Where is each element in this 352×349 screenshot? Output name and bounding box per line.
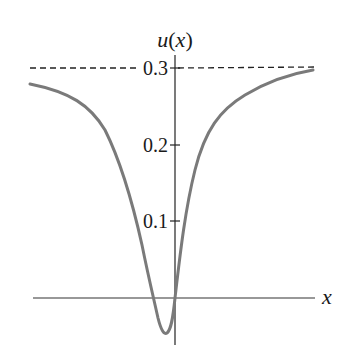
x-axis-label: x xyxy=(321,284,332,309)
y-axis-label: u(x) xyxy=(157,27,192,52)
tick-label-02: 0.2 xyxy=(143,134,168,156)
u-curve xyxy=(30,70,313,333)
chart: u(x) 0.3 0.2 0.1 x xyxy=(0,0,352,349)
asymptote-dashed-line-right xyxy=(178,67,315,68)
tick-label-03: 0.3 xyxy=(143,57,168,79)
tick-label-01: 0.1 xyxy=(143,210,168,232)
